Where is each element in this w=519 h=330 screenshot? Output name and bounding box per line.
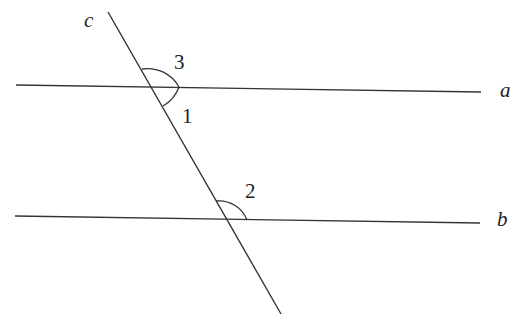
angle-2-arc — [216, 201, 247, 220]
label-angle-1: 1 — [182, 106, 193, 127]
label-angle-2: 2 — [245, 181, 256, 202]
label-b: b — [497, 209, 508, 230]
label-a: a — [500, 80, 511, 101]
diagram-canvas: c 3 1 2 a b — [0, 0, 519, 330]
label-c: c — [84, 10, 93, 31]
line-a — [16, 85, 481, 92]
diagram-svg — [0, 0, 519, 330]
label-angle-3: 3 — [174, 52, 185, 73]
line-c-transversal — [108, 12, 281, 314]
angle-1-arc — [163, 87, 179, 106]
